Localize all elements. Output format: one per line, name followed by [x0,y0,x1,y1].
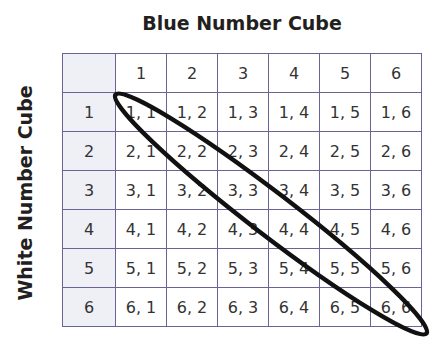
cell: 2, 3 [218,132,269,171]
cell: 1, 4 [269,93,320,132]
cell: 6, 3 [218,288,269,327]
col-header: 2 [167,54,218,93]
cell: 5, 6 [371,249,422,288]
cell: 4, 4 [269,210,320,249]
cell: 6, 1 [116,288,167,327]
col-header: 4 [269,54,320,93]
cell: 6, 4 [269,288,320,327]
cell: 1, 5 [320,93,371,132]
cell: 4, 6 [371,210,422,249]
cell: 5, 1 [116,249,167,288]
col-header: 1 [116,54,167,93]
cell: 4, 2 [167,210,218,249]
cell: 4, 3 [218,210,269,249]
cell: 3, 2 [167,171,218,210]
cell: 1, 2 [167,93,218,132]
cell: 4, 5 [320,210,371,249]
cell: 4, 1 [116,210,167,249]
header-row: 1 2 3 4 5 6 [63,54,422,93]
cell: 5, 3 [218,249,269,288]
table-row: 3 3, 1 3, 2 3, 3 3, 4 3, 5 3, 6 [63,171,422,210]
corner-cell [63,54,116,93]
cell: 1, 1 [116,93,167,132]
row-header: 6 [63,288,116,327]
column-axis-title: Blue Number Cube [62,12,422,34]
cell: 6, 2 [167,288,218,327]
table-row: 1 1, 1 1, 2 1, 3 1, 4 1, 5 1, 6 [63,93,422,132]
col-header: 5 [320,54,371,93]
cell: 3, 5 [320,171,371,210]
cell: 2, 5 [320,132,371,171]
cell: 1, 3 [218,93,269,132]
cell: 2, 2 [167,132,218,171]
col-header: 3 [218,54,269,93]
row-header: 3 [63,171,116,210]
cell: 3, 6 [371,171,422,210]
cell: 3, 1 [116,171,167,210]
cell: 5, 4 [269,249,320,288]
table-row: 4 4, 1 4, 2 4, 3 4, 4 4, 5 4, 6 [63,210,422,249]
row-header: 2 [63,132,116,171]
table-row: 5 5, 1 5, 2 5, 3 5, 4 5, 5 5, 6 [63,249,422,288]
cell: 2, 1 [116,132,167,171]
cell: 5, 2 [167,249,218,288]
table-row: 6 6, 1 6, 2 6, 3 6, 4 6, 5 6, 6 [63,288,422,327]
cell: 6, 6 [371,288,422,327]
cell: 6, 5 [320,288,371,327]
outcome-table: 1 2 3 4 5 6 1 1, 1 1, 2 1, 3 1, 4 1, 5 1… [62,53,422,327]
row-header: 4 [63,210,116,249]
row-header: 5 [63,249,116,288]
cell: 3, 4 [269,171,320,210]
cell: 5, 5 [320,249,371,288]
table-row: 2 2, 1 2, 2 2, 3 2, 4 2, 5 2, 6 [63,132,422,171]
row-header: 1 [63,93,116,132]
cell: 3, 3 [218,171,269,210]
cell: 2, 6 [371,132,422,171]
col-header: 6 [371,54,422,93]
cell: 2, 4 [269,132,320,171]
row-axis-title: White Number Cube [14,85,36,300]
cell: 1, 6 [371,93,422,132]
